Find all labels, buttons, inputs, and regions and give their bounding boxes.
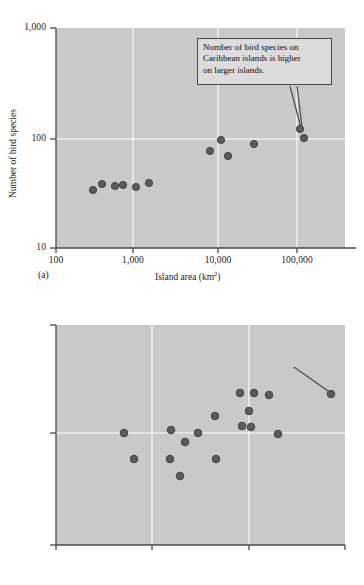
data-point <box>265 391 273 399</box>
x-axis-title-a-base: Island area (km <box>155 272 214 282</box>
data-point <box>211 412 219 420</box>
data-point <box>217 136 224 143</box>
data-point <box>206 147 213 154</box>
data-point <box>98 180 105 187</box>
data-point <box>247 423 255 431</box>
callout-a-line-2: Caribbean islands is higher <box>203 53 326 64</box>
x-axis-title-a: Island area (km2) <box>155 270 221 282</box>
data-point <box>245 407 253 415</box>
ytick-label-1000: 1,000 <box>8 22 46 32</box>
data-point <box>132 183 139 190</box>
data-point <box>274 430 282 438</box>
panel-b-plot-area <box>0 290 364 585</box>
data-point <box>176 472 184 480</box>
data-point <box>236 389 244 397</box>
callout-annotation-a: Number of bird species on Caribbean isla… <box>197 38 332 85</box>
ytick-label-10: 10 <box>8 242 46 252</box>
data-point <box>181 438 189 446</box>
data-point <box>250 389 258 397</box>
data-point <box>145 179 152 186</box>
data-point <box>120 429 128 437</box>
data-point <box>300 134 307 141</box>
panel-b-beetle-species: 100 10 0 .1 1 10 100 Number of beetle sp… <box>0 290 364 585</box>
xtick-label-10000: 10,000 <box>196 255 240 265</box>
data-point <box>224 152 231 159</box>
data-point <box>238 422 246 430</box>
callout-a-line-1: Number of bird species on <box>203 42 326 53</box>
xtick-label-100000: 100,000 <box>273 255 321 265</box>
data-point <box>166 455 174 463</box>
data-point <box>111 182 118 189</box>
y-axis-title-a: Number of bird species <box>8 109 18 198</box>
data-point <box>327 390 335 398</box>
data-point <box>212 455 220 463</box>
data-point <box>167 426 175 434</box>
x-axis-title-a-tail: ) <box>217 272 220 282</box>
panel-letter-a: (a) <box>38 270 49 280</box>
panel-a-bird-species: 1,000 100 10 100 1,000 10,000 100,000 Nu… <box>0 0 364 290</box>
figure-species-area-relationships: 1,000 100 10 100 1,000 10,000 100,000 Nu… <box>0 0 364 585</box>
xtick-label-100: 100 <box>36 255 76 265</box>
data-point <box>250 140 257 147</box>
xtick-label-1000: 1,000 <box>113 255 153 265</box>
data-point <box>89 186 96 193</box>
data-point <box>119 181 126 188</box>
data-point <box>296 125 303 132</box>
data-point <box>130 455 138 463</box>
data-point <box>194 429 202 437</box>
callout-a-line-3: on larger islands. <box>203 65 326 76</box>
